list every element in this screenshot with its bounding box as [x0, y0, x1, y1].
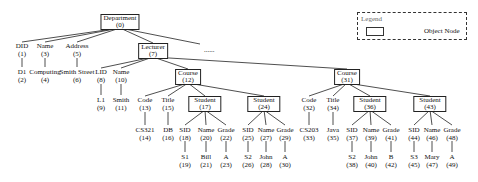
node-value-d1: D1(2)	[18, 68, 27, 84]
node-id: (11)	[113, 104, 130, 112]
node-id: (46)	[424, 134, 441, 142]
node-label: John	[259, 153, 272, 161]
node-label: Code	[302, 96, 317, 104]
node-value-s2-26: S2(26)	[242, 153, 254, 169]
node-value-cs203: CS203(33)	[299, 126, 318, 142]
node-value-b-42: B(42)	[385, 153, 397, 169]
node-id: (38)	[346, 161, 358, 169]
xml-tree-diagram: Department (0) Lecturer (7) Course (12) …	[0, 0, 478, 182]
node-label: A	[446, 153, 458, 161]
node-id: (35)	[327, 134, 339, 142]
node-label: Smith	[113, 96, 130, 104]
node-id: (5)	[66, 50, 89, 58]
node-sid-44: SID(44)	[408, 126, 420, 142]
node-id: (0)	[103, 22, 136, 29]
node-value-bill: Bill(21)	[200, 153, 212, 169]
node-label: Title	[162, 96, 175, 104]
node-value-john-28: John(28)	[259, 153, 272, 169]
node-id: (31)	[337, 77, 357, 84]
node-label: SID	[346, 126, 358, 134]
node-label: DB	[162, 126, 174, 134]
node-label: Name	[424, 126, 441, 134]
node-title-15: Title(15)	[162, 96, 175, 112]
node-label: Address	[66, 42, 89, 50]
node-label: Java	[327, 126, 339, 134]
node-label: A	[220, 153, 232, 161]
node-id: (41)	[382, 134, 399, 142]
node-did: DID(1)	[16, 42, 28, 58]
node-name-20: Name(20)	[198, 126, 215, 142]
node-id: (47)	[424, 161, 439, 169]
node-label: Code	[138, 96, 153, 104]
node-label: Title	[327, 96, 340, 104]
node-label: Grade	[382, 126, 399, 134]
node-value-l1: L1(9)	[97, 96, 105, 112]
node-id: (10)	[113, 76, 130, 84]
node-label: SID	[242, 126, 254, 134]
node-student-17: Student (17)	[188, 96, 221, 112]
node-label: Name	[37, 42, 54, 50]
node-id: (12)	[178, 77, 198, 84]
node-label: D1	[18, 68, 27, 76]
node-label: Name	[113, 68, 130, 76]
node-value-s1: S1(19)	[179, 153, 191, 169]
node-label: Name	[258, 126, 275, 134]
node-value-s2-38: S2(38)	[346, 153, 358, 169]
node-name-10: Name(10)	[113, 68, 130, 84]
node-code-32: Code(32)	[302, 96, 317, 112]
node-id: (34)	[327, 104, 340, 112]
node-value-s3-45: S3(45)	[408, 153, 420, 169]
ellipsis: ......	[204, 46, 215, 54]
node-id: (18)	[179, 134, 191, 142]
node-id: (29)	[276, 134, 293, 142]
node-id: (49)	[446, 161, 458, 169]
node-value-smith: Smith(11)	[113, 96, 130, 112]
node-sid-25: SID(25)	[242, 126, 254, 142]
legend-item-label: Object Node	[424, 27, 460, 35]
node-title-34: Title(34)	[327, 96, 340, 112]
node-label: A	[279, 153, 291, 161]
node-name-46: Name(46)	[424, 126, 441, 142]
node-id: (23)	[220, 161, 232, 169]
node-id: (28)	[259, 161, 272, 169]
node-value-cs321: CS321(14)	[135, 126, 154, 142]
node-label: Bill	[200, 153, 212, 161]
node-course-31: Course (31)	[334, 69, 360, 85]
node-value-a-30: A(30)	[279, 153, 291, 169]
node-label: LID	[95, 68, 107, 76]
node-id: (27)	[258, 134, 275, 142]
node-id: (13)	[138, 104, 153, 112]
node-grade-48: Grade(48)	[443, 126, 460, 142]
node-label: Name	[198, 126, 215, 134]
node-value-db: DB(16)	[162, 126, 174, 142]
node-label: S1	[179, 153, 191, 161]
node-label: SID	[408, 126, 420, 134]
node-id: (48)	[443, 134, 460, 142]
legend-title: Legend	[361, 15, 382, 23]
node-id: (24)	[253, 104, 274, 111]
node-label: CS321	[135, 126, 154, 134]
node-value-computing: Computing(4)	[29, 68, 61, 84]
node-id: (45)	[408, 161, 420, 169]
node-label: Smith Street	[60, 68, 95, 76]
legend: Legend Object Node	[357, 12, 467, 40]
node-id: (33)	[299, 134, 318, 142]
node-id: (19)	[179, 161, 191, 169]
node-id: (15)	[162, 104, 175, 112]
node-id: (43)	[419, 104, 440, 111]
node-code-13: Code(13)	[138, 96, 153, 112]
node-label: CS203	[299, 126, 318, 134]
node-value-john-40: John(40)	[364, 153, 377, 169]
node-id: (32)	[302, 104, 317, 112]
node-student-24: Student (24)	[247, 96, 280, 112]
node-lecturer: Lecturer (7)	[138, 43, 168, 59]
node-label: SID	[179, 126, 191, 134]
node-label: Grade	[443, 126, 460, 134]
node-label: Grade	[276, 126, 293, 134]
node-id: (20)	[198, 134, 215, 142]
node-id: (9)	[97, 104, 105, 112]
node-grade-29: Grade(29)	[276, 126, 293, 142]
node-id: (40)	[364, 161, 377, 169]
node-id: (36)	[359, 104, 380, 111]
node-label: DID	[16, 42, 28, 50]
